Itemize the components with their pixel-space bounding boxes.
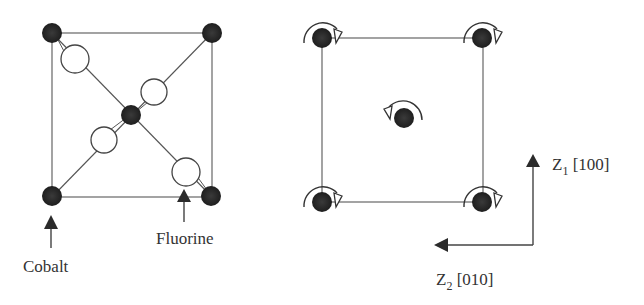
corner-atom-top-right bbox=[464, 23, 502, 48]
fluorine-label: Fluorine bbox=[156, 229, 214, 248]
arrowhead-icon bbox=[434, 238, 448, 252]
fluorine-atom bbox=[61, 45, 89, 73]
arrowhead-icon bbox=[526, 154, 540, 167]
rotation-arrowhead-icon bbox=[494, 29, 502, 43]
cobalt-atom bbox=[472, 28, 492, 48]
cobalt-atom bbox=[202, 23, 222, 43]
figure-canvas: Cobalt Fluorine bbox=[0, 0, 644, 305]
fluorine-atom bbox=[91, 127, 117, 153]
cobalt-atom bbox=[42, 23, 62, 43]
right-spin-diagram: Z1 [100] Z2 [010] bbox=[304, 23, 610, 293]
corner-atom-top-left bbox=[304, 23, 342, 48]
rotation-arrowhead-icon bbox=[334, 29, 342, 43]
corner-atom-bottom-left bbox=[304, 187, 342, 212]
rotation-arrowhead-icon bbox=[334, 193, 342, 207]
cobalt-atom bbox=[42, 186, 62, 206]
cobalt-atom bbox=[472, 192, 492, 212]
z2-label: Z2 [010] bbox=[436, 270, 493, 293]
cobalt-atom bbox=[394, 108, 414, 128]
rotation-arrowhead-icon bbox=[494, 193, 502, 207]
fluorine-atom bbox=[141, 79, 167, 105]
cobalt-atom bbox=[121, 105, 141, 125]
axis-z1: Z1 [100] bbox=[526, 154, 609, 245]
rotation-arrowhead-icon bbox=[384, 106, 392, 119]
cobalt-atom bbox=[312, 28, 332, 48]
arrowhead-icon bbox=[177, 189, 191, 202]
fluorine-atom bbox=[172, 158, 200, 186]
cobalt-atom bbox=[312, 192, 332, 212]
left-unit-cell: Cobalt Fluorine bbox=[23, 23, 222, 276]
arrowhead-icon bbox=[44, 215, 58, 229]
axis-z2: Z2 [010] bbox=[434, 238, 533, 293]
center-atom bbox=[384, 101, 422, 128]
z1-label: Z1 [100] bbox=[552, 155, 609, 178]
cobalt-atom bbox=[201, 186, 221, 206]
cobalt-label: Cobalt bbox=[23, 257, 69, 276]
